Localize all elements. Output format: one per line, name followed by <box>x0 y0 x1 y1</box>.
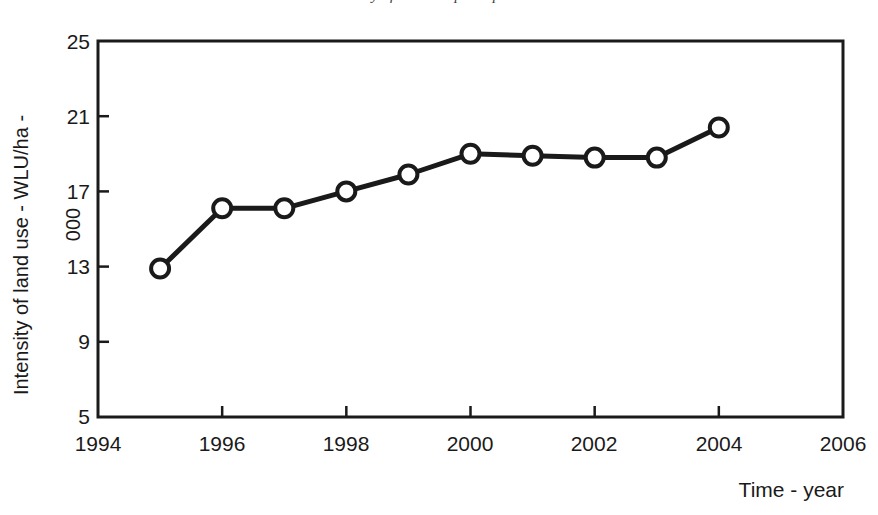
plot-area <box>0 0 878 515</box>
data-point-marker <box>524 147 542 165</box>
data-point-marker <box>586 149 604 167</box>
data-point-marker <box>337 182 355 200</box>
plot-background <box>98 41 843 417</box>
data-point-marker <box>710 119 728 137</box>
data-point-marker <box>399 166 417 184</box>
data-point-marker <box>462 145 480 163</box>
data-point-marker <box>648 149 666 167</box>
data-point-marker <box>213 199 231 217</box>
chart-figure: Intensity of land use per exploitation I… <box>0 0 878 515</box>
data-point-marker <box>275 199 293 217</box>
data-point-marker <box>151 260 169 278</box>
